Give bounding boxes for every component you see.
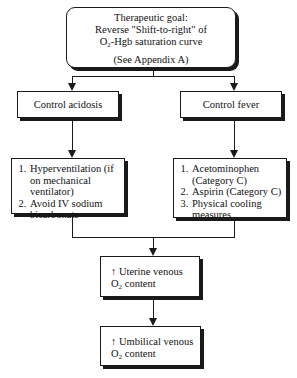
connector-acidosis-actions [72,118,73,152]
connector-left-merge [72,214,73,238]
fever-actions-box: Acetominophen (Category C) Aspirin (Cate… [173,158,287,218]
acidosis-action-2: Avoid IV sodium bicarbonate [29,198,121,221]
goal-line-3: O2-Hgb saturation curve [67,36,235,51]
control-fever-label: Control fever [203,99,259,110]
umbilical-venous-box: ↑ Umbilical venous O2 content [100,326,201,366]
control-acidosis-label: Control acidosis [34,99,103,110]
fever-action-2: Aspirin (Category C) [191,186,283,198]
arrow-down-icon [68,83,76,91]
control-acidosis-box: Control acidosis [17,91,119,118]
arrow-down-icon [230,83,238,91]
connector-uterine-umbilical [153,297,154,319]
acidosis-action-1: Hyperventilation (if on mechanical venti… [29,163,121,198]
goal-note: (See Appendix A) [67,54,235,66]
fever-action-3: Physical cooling measures [191,198,283,221]
connector-fever-actions [234,118,235,152]
control-fever-box: Control fever [180,91,282,118]
arrow-down-icon [230,150,238,158]
arrow-down-icon [149,318,157,326]
goal-box: Therapeutic goal: Reverse "Shift-to-righ… [66,7,236,68]
goal-line-1: Therapeutic goal: [67,12,235,24]
uterine-venous-box: ↑ Uterine venous O2 content [100,256,200,297]
arrow-down-icon [68,150,76,158]
connector-right-merge [234,218,235,238]
connector-split [72,76,234,77]
fever-action-1: Acetominophen (Category C) [191,163,283,186]
acidosis-actions-box: Hyperventilation (if on mechanical venti… [11,158,125,214]
arrow-down-icon [149,248,157,256]
goal-line-2: Reverse "Shift-to-right" of [67,24,235,36]
